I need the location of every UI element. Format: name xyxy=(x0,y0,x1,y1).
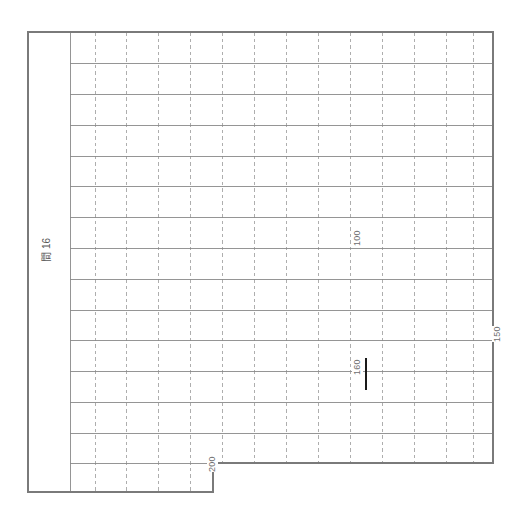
technical-drawing-svg xyxy=(0,0,522,518)
outer-outline xyxy=(28,32,493,492)
drawing-canvas: 間 16 100 160 200 150 xyxy=(0,0,522,518)
dimension-label-100: 100 xyxy=(352,230,363,246)
span-label-group: 間 16 xyxy=(42,238,52,262)
dimension-label-200: 200 xyxy=(207,456,218,472)
dimension-label-150: 150 xyxy=(492,326,503,342)
span-symbol-label: 間 xyxy=(42,252,52,262)
horizontal-gridlines xyxy=(70,63,493,463)
dimension-label-160: 160 xyxy=(352,359,363,375)
span-count-label: 16 xyxy=(42,238,52,249)
vertical-gridlines xyxy=(95,32,473,492)
